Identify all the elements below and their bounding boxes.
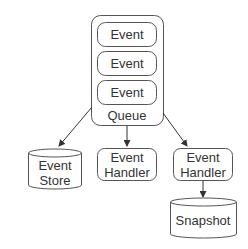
queue-label: Queue — [107, 108, 146, 123]
event-label-1: Event — [110, 27, 144, 42]
handler-middle-line2: Handler — [104, 165, 150, 180]
event-label-2: Event — [110, 56, 144, 71]
event-box-3: Event — [98, 81, 157, 105]
event-box-1: Event — [98, 23, 157, 47]
event-store-line1: Event — [38, 158, 72, 173]
queue-node: Event Event Event Queue — [92, 16, 164, 126]
event-label-3: Event — [110, 85, 144, 100]
edge-queue-to-handler-right — [163, 113, 187, 146]
edge-queue-to-store — [59, 107, 92, 146]
snapshot-node: Snapshot — [171, 198, 237, 238]
handler-middle-line1: Event — [110, 150, 144, 165]
event-store-line2: Store — [39, 173, 70, 188]
event-store-node: Event Store — [29, 149, 82, 189]
event-box-2: Event — [98, 52, 157, 76]
handler-right-line2: Handler — [180, 165, 226, 180]
handler-right-line1: Event — [186, 150, 220, 165]
diagram-canvas: Event Event Event Queue Event Store — [0, 0, 248, 249]
event-handler-middle-node: Event Handler — [98, 149, 157, 181]
snapshot-label: Snapshot — [176, 213, 231, 228]
event-handler-right-node: Event Handler — [174, 149, 233, 181]
